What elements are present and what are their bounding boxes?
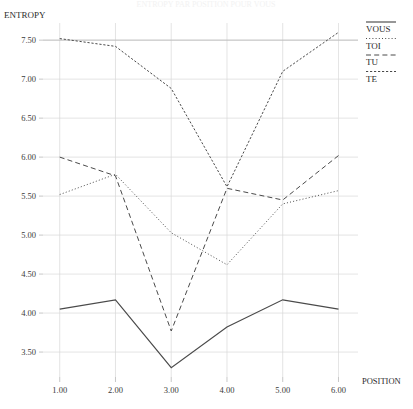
entropy-line-chart: ENTROPY PAR POSITION POUR VOUS ENTROPY 3… bbox=[0, 0, 413, 409]
legend-label-tu[interactable]: TU bbox=[366, 57, 378, 67]
x-tick-label: 6.00 bbox=[331, 385, 346, 395]
x-tick-label: 1.00 bbox=[52, 385, 67, 395]
y-axis-label: ENTROPY bbox=[4, 10, 46, 20]
series-line-te bbox=[60, 32, 339, 186]
y-tick-label: 5.00 bbox=[21, 230, 36, 240]
data-series-group bbox=[60, 32, 339, 367]
series-line-toi bbox=[60, 174, 339, 264]
series-line-vous bbox=[60, 300, 339, 368]
x-axis-ticks: 1.002.003.004.005.006.00 bbox=[52, 377, 346, 395]
y-tick-label: 7.50 bbox=[21, 35, 36, 45]
y-tick-label: 4.50 bbox=[21, 269, 36, 279]
series-line-tu bbox=[60, 156, 339, 331]
y-tick-label: 4.00 bbox=[21, 308, 36, 318]
y-tick-label: 5.50 bbox=[21, 191, 36, 201]
gridlines bbox=[43, 23, 358, 377]
x-tick-label: 5.00 bbox=[275, 385, 290, 395]
x-tick-label: 4.00 bbox=[220, 385, 235, 395]
x-axis-label: POSITION bbox=[362, 376, 401, 386]
chart-legend: VOUSTOITUTE bbox=[366, 22, 396, 84]
legend-label-te[interactable]: TE bbox=[366, 74, 377, 84]
x-tick-label: 3.00 bbox=[164, 385, 179, 395]
x-tick-label: 2.00 bbox=[108, 385, 123, 395]
legend-label-vous[interactable]: VOUS bbox=[366, 24, 391, 34]
y-axis-ticks: 3.504.004.505.005.506.006.507.007.50 bbox=[21, 35, 43, 357]
y-tick-label: 7.00 bbox=[21, 74, 36, 84]
y-tick-label: 3.50 bbox=[21, 347, 36, 357]
plot-canvas: ENTROPY PAR POSITION POUR VOUS ENTROPY 3… bbox=[0, 0, 413, 409]
y-tick-label: 6.00 bbox=[21, 152, 36, 162]
legend-label-toi[interactable]: TOI bbox=[366, 41, 381, 51]
y-tick-label: 6.50 bbox=[21, 113, 36, 123]
chart-title: ENTROPY PAR POSITION POUR VOUS bbox=[137, 0, 276, 9]
